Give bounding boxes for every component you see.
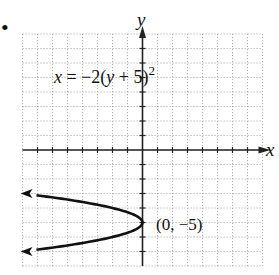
y-axis-label: y — [135, 9, 146, 30]
axes — [23, 26, 271, 266]
x-axis-label: x — [265, 139, 275, 160]
parabola-curve — [21, 189, 143, 256]
vertex-label: (0, −5) — [156, 215, 202, 234]
equation-label: x = −2(y + 5)2 — [53, 63, 155, 88]
bullet-marker: • — [1, 15, 9, 40]
parabola-graph: • y x x = −2(y + 5)2 (0, −5) — [0, 0, 279, 275]
